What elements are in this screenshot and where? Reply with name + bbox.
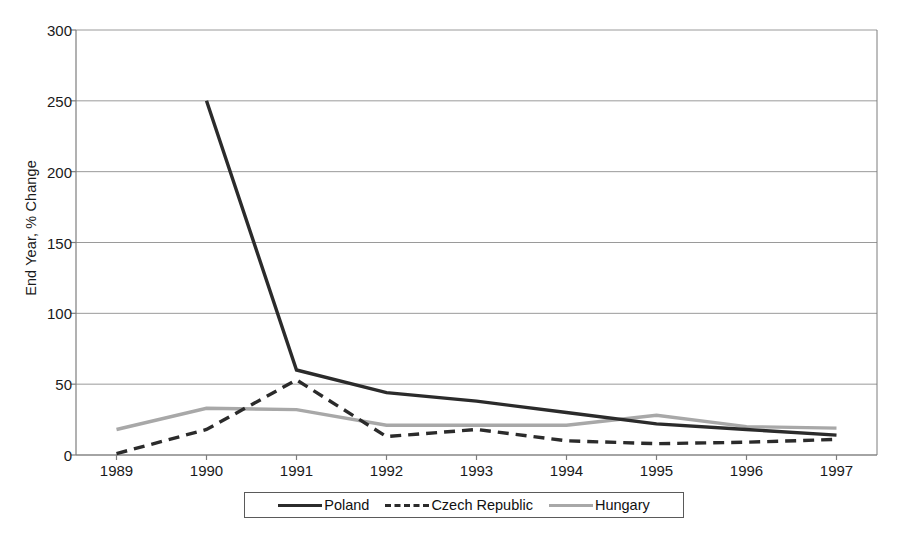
x-tick-label-1990: 1990 xyxy=(167,462,247,479)
plot-area xyxy=(0,0,908,539)
legend-label-czech-republic: Czech Republic xyxy=(431,497,533,513)
legend-label-poland: Poland xyxy=(324,497,369,513)
line-chart-figure: End Year, % Change 050100150200250300 19… xyxy=(0,0,908,539)
chart-legend: Poland Czech Republic Hungary xyxy=(244,492,684,518)
legend-label-hungary: Hungary xyxy=(595,497,650,513)
y-tick-label-0: 0 xyxy=(26,447,72,464)
legend-item-poland: Poland xyxy=(278,497,369,513)
series-line-czech-republic xyxy=(117,380,837,454)
legend-item-hungary: Hungary xyxy=(549,497,650,513)
x-tick-label-1989: 1989 xyxy=(77,462,157,479)
y-tick-label-100: 100 xyxy=(26,305,72,322)
legend-line-solid-dark-icon xyxy=(278,504,322,507)
x-tick-label-1995: 1995 xyxy=(617,462,697,479)
y-tick-label-250: 250 xyxy=(26,92,72,109)
x-tick-label-1996: 1996 xyxy=(707,462,787,479)
x-tick-marks xyxy=(117,455,837,460)
y-tick-label-150: 150 xyxy=(26,234,72,251)
y-tick-label-50: 50 xyxy=(26,376,72,393)
legend-item-czech-republic: Czech Republic xyxy=(385,497,533,513)
gridlines xyxy=(76,30,877,455)
legend-line-dashed-dark-icon xyxy=(385,504,429,507)
y-axis-tick-labels: 050100150200250300 xyxy=(0,0,72,539)
x-tick-label-1997: 1997 xyxy=(797,462,877,479)
x-tick-label-1994: 1994 xyxy=(527,462,607,479)
x-tick-label-1993: 1993 xyxy=(437,462,517,479)
legend-line-solid-gray-icon xyxy=(549,504,593,507)
y-tick-label-200: 200 xyxy=(26,163,72,180)
x-tick-label-1992: 1992 xyxy=(347,462,427,479)
x-tick-label-1991: 1991 xyxy=(257,462,337,479)
series-line-poland xyxy=(207,101,837,435)
y-tick-label-300: 300 xyxy=(26,22,72,39)
